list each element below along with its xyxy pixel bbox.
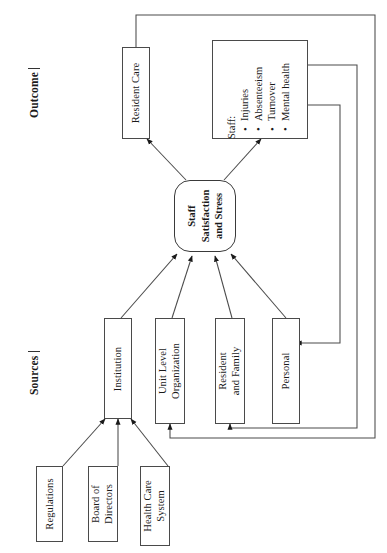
node-health-care-system[interactable]: Health Care System <box>140 466 170 546</box>
node-core-label: Staff Satisfaction and Stress <box>185 190 226 243</box>
list-item: Turnover <box>265 36 278 131</box>
edge-core-to-staff-outcomes <box>224 139 261 180</box>
node-resident-care[interactable]: Resident Care <box>122 47 150 139</box>
resident-family-label-line-1: Resident <box>217 352 228 390</box>
list-item: Mental health <box>279 36 292 131</box>
node-board-of-directors-label: Board of Directors <box>90 484 116 524</box>
edge-healthcare-to-institution <box>131 419 168 466</box>
edge-institution-to-core <box>121 254 177 318</box>
hcs-label-line-2: System <box>155 490 166 522</box>
node-institution-label: Institution <box>112 346 125 390</box>
core-label-line-1: Staff <box>186 205 197 227</box>
list-item: Injuries <box>238 36 251 131</box>
node-staff-outcomes[interactable]: Staff: Injuries Absenteeism Turnover Men… <box>212 40 308 139</box>
edge-unit-to-core <box>172 256 192 318</box>
edge-regulations-to-institution <box>63 419 105 466</box>
section-heading-outcome: Outcome <box>28 68 40 118</box>
node-staff-satisfaction-and-stress[interactable]: Staff Satisfaction and Stress <box>174 180 236 252</box>
hcs-label-line-1: Health Care <box>142 480 153 532</box>
node-board-of-directors[interactable]: Board of Directors <box>88 466 118 542</box>
edge-personal-to-core <box>231 254 286 318</box>
core-label-line-2: Satisfaction <box>199 190 210 243</box>
node-personal[interactable]: Personal <box>272 318 300 424</box>
node-resident-and-family[interactable]: Resident and Family <box>215 318 245 424</box>
unit-label-line-2: Organization <box>170 343 181 399</box>
node-unit-level-organization[interactable]: Unit Level Organization <box>155 318 185 424</box>
board-label-line-1: Board of <box>90 485 101 523</box>
list-item: Absenteeism <box>252 36 265 131</box>
board-label-line-2: Directors <box>103 484 114 524</box>
edge-core-to-resident-care <box>147 139 186 180</box>
staff-outcomes-list: Injuries Absenteeism Turnover Mental hea… <box>238 36 292 139</box>
core-label-line-3: and Stress <box>213 193 224 239</box>
staff-outcomes-rotation-wrapper: Staff: Injuries Absenteeism Turnover Men… <box>223 36 297 144</box>
node-resident-and-family-label: Resident and Family <box>217 347 243 396</box>
staff-outcomes-title: Staff: <box>225 36 238 139</box>
node-resident-care-label: Resident Care <box>130 63 143 124</box>
node-regulations-label: Regulations <box>43 478 56 529</box>
edge-feedback-staff-to-personal <box>296 105 340 343</box>
node-unit-level-organization-label: Unit Level Organization <box>157 343 183 399</box>
figure-canvas: Outcome Sources Resident Care Staff: Inj… <box>0 0 387 553</box>
node-regulations[interactable]: Regulations <box>36 466 63 542</box>
edge-resident-family-to-core <box>215 256 232 318</box>
node-personal-label: Personal <box>280 353 293 390</box>
node-institution[interactable]: Institution <box>104 318 132 419</box>
unit-label-line-1: Unit Level <box>157 348 168 394</box>
section-heading-sources: Sources <box>28 351 40 395</box>
node-health-care-system-label: Health Care System <box>142 480 168 532</box>
resident-family-label-line-2: and Family <box>230 347 241 396</box>
